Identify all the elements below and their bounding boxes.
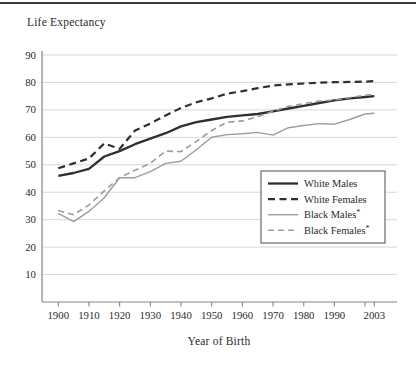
legend-label-black-females: Black Females* xyxy=(304,224,369,237)
legend-label-black-males: Black Males* xyxy=(304,208,360,221)
x-tick-label-1950: 1950 xyxy=(201,309,223,321)
y-tick-label-70: 70 xyxy=(25,103,36,115)
x-tick-label-1940: 1940 xyxy=(170,309,192,321)
x-tick-label-1970: 1970 xyxy=(262,309,284,321)
x-tick-label-1980: 1980 xyxy=(293,309,315,321)
x-tick-label-1910: 1910 xyxy=(78,309,100,321)
x-tick-label-1990: 1990 xyxy=(324,309,346,321)
y-tick-label-30: 30 xyxy=(25,213,36,225)
y-tick-label-10: 10 xyxy=(25,268,36,280)
y-tick-label-60: 60 xyxy=(25,131,36,143)
top-rule-divider xyxy=(0,2,416,4)
life-expectancy-chart: 1020304050607080901900191019201930194019… xyxy=(0,0,416,366)
y-tick-label-90: 90 xyxy=(25,49,36,61)
x-tick-label-1920: 1920 xyxy=(109,309,131,321)
x-axis-title: Year of Birth xyxy=(188,335,251,347)
x-tick-label-1900: 1900 xyxy=(47,309,69,321)
y-tick-label-80: 80 xyxy=(25,76,36,88)
life-expectancy-figure: Life Expectancy 102030405060708090190019… xyxy=(0,0,416,366)
legend-label-white-females: White Females xyxy=(304,194,367,205)
x-tick-label-2003: 2003 xyxy=(363,309,385,321)
x-tick-label-1960: 1960 xyxy=(232,309,254,321)
y-tick-label-20: 20 xyxy=(25,241,36,253)
legend-label-white-males: White Males xyxy=(304,178,357,189)
chart-title: Life Expectancy xyxy=(27,16,106,28)
x-tick-label-1930: 1930 xyxy=(140,309,162,321)
y-tick-label-40: 40 xyxy=(25,186,36,198)
y-tick-label-50: 50 xyxy=(25,158,36,170)
